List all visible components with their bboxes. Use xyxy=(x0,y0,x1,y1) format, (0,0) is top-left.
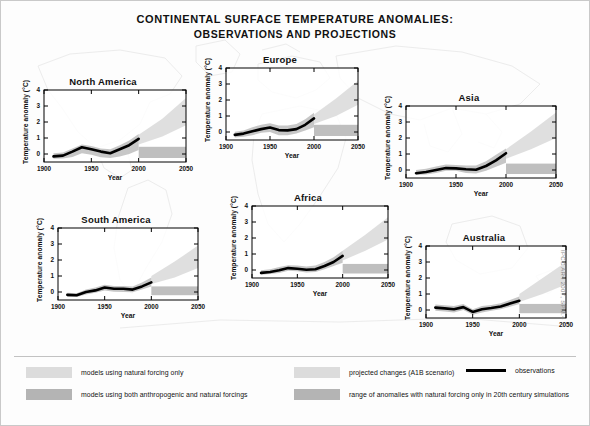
legend-label-anthro-natural: models using both anthropogenic and natu… xyxy=(81,391,248,398)
legend-label-projected: projected changes (A1B scenario) xyxy=(349,369,454,376)
y-tick-label: 4 xyxy=(410,242,422,249)
legend-item-observations: observations xyxy=(466,367,555,374)
x-tick-label: 2050 xyxy=(345,143,371,150)
y-tick-label: 4 xyxy=(390,102,402,109)
legend-swatch-observations xyxy=(466,369,506,372)
x-axis-label: Year xyxy=(406,190,556,197)
title-line-1: Continental Surface Temperature Anomalie… xyxy=(0,12,590,27)
y-tick-label: 1 xyxy=(390,150,402,157)
legend-label-observations: observations xyxy=(515,367,555,374)
x-tick-label: 1950 xyxy=(92,303,118,310)
y-tick-label: 1 xyxy=(410,290,422,297)
x-tick-label: 1950 xyxy=(284,281,310,288)
x-tick-label: 1900 xyxy=(413,321,439,328)
y-tick-label: 2 xyxy=(236,234,248,241)
range-band-20c xyxy=(139,147,186,158)
y-tick-label: 0 xyxy=(28,150,40,157)
y-tick-label: 4 xyxy=(42,224,54,231)
y-tick-label: 4 xyxy=(28,86,40,93)
y-tick-label: 2 xyxy=(410,274,422,281)
y-tick-label: 1 xyxy=(236,250,248,257)
x-tick-label: 2050 xyxy=(173,165,199,172)
range-band-20c xyxy=(343,264,388,274)
x-tick-label: 2000 xyxy=(126,165,152,172)
x-tick-label: 1900 xyxy=(393,181,419,188)
figure-title: Continental Surface Temperature Anomalie… xyxy=(0,12,590,42)
y-tick-label: 0 xyxy=(42,288,54,295)
legend-swatch-range-20c xyxy=(294,389,340,400)
legend-label-natural-only: models using natural forcing only xyxy=(81,369,183,376)
y-axis-label: Temperature anomaly (°C) xyxy=(404,236,411,320)
x-axis-label: Year xyxy=(58,312,198,319)
y-tick-label: 4 xyxy=(210,64,222,71)
legend-divider xyxy=(14,356,576,357)
y-tick-label: 2 xyxy=(42,256,54,263)
legend-item-range-20c: range of anomalies with natural forcing … xyxy=(294,389,569,400)
x-tick-label: 1950 xyxy=(443,181,469,188)
x-tick-label: 1950 xyxy=(257,143,283,150)
legend-swatch-natural-only xyxy=(26,367,72,378)
panel-europe: Europe012341900195020002050Temperature a… xyxy=(196,54,364,162)
x-tick-label: 1950 xyxy=(78,165,104,172)
x-tick-label: 2000 xyxy=(301,143,327,150)
panel-africa: Africa012341900195020002050Temperature a… xyxy=(222,192,394,300)
x-tick-label: 1900 xyxy=(31,165,57,172)
range-band-20c xyxy=(506,164,556,174)
y-tick-label: 3 xyxy=(210,80,222,87)
x-tick-label: 2050 xyxy=(185,303,211,310)
panel-australia: Australia012341900195020002050Temperatur… xyxy=(396,232,572,340)
x-tick-label: 2050 xyxy=(553,321,579,328)
y-tick-label: 0 xyxy=(410,306,422,313)
range-band-20c xyxy=(519,304,566,313)
x-axis-label: Year xyxy=(226,152,358,159)
panel-south-america: South America012341900195020002050Temper… xyxy=(28,214,204,322)
range-band-20c xyxy=(314,125,358,136)
range-band-20c xyxy=(151,286,198,295)
title-line-2: Observations and Projections xyxy=(0,27,590,42)
x-tick-label: 2000 xyxy=(506,321,532,328)
y-tick-label: 3 xyxy=(390,118,402,125)
y-tick-label: 1 xyxy=(210,112,222,119)
y-tick-label: 3 xyxy=(410,258,422,265)
x-tick-label: 2000 xyxy=(138,303,164,310)
x-tick-label: 1900 xyxy=(239,281,265,288)
y-tick-label: 2 xyxy=(210,96,222,103)
y-tick-label: 0 xyxy=(390,166,402,173)
y-tick-label: 3 xyxy=(42,240,54,247)
panel-north-america: North America012341900195020002050Temper… xyxy=(14,76,192,184)
legend: models using natural forcing only models… xyxy=(0,363,590,421)
panel-asia: Asia012341900195020002050Temperature ano… xyxy=(376,92,562,200)
legend-label-range-20c: range of anomalies with natural forcing … xyxy=(349,391,569,398)
x-tick-label: 2000 xyxy=(330,281,356,288)
source-credit: IPCC AR4 2007, SPM.4 xyxy=(560,250,566,320)
y-axis-label: Temperature anomaly (°C) xyxy=(230,196,237,280)
y-tick-label: 3 xyxy=(236,218,248,225)
x-tick-label: 1900 xyxy=(45,303,71,310)
y-tick-label: 0 xyxy=(236,266,248,273)
legend-swatch-projected xyxy=(294,367,340,378)
y-axis-label: Temperature anomaly (°C) xyxy=(36,218,43,302)
legend-item-projected: projected changes (A1B scenario) xyxy=(294,367,454,378)
y-tick-label: 4 xyxy=(236,202,248,209)
legend-item-natural-only: models using natural forcing only xyxy=(26,367,183,378)
y-axis-label: Temperature anomaly (°C) xyxy=(22,80,29,164)
y-tick-label: 3 xyxy=(28,102,40,109)
x-tick-label: 2050 xyxy=(543,181,569,188)
legend-item-anthro-natural: models using both anthropogenic and natu… xyxy=(26,389,248,400)
y-tick-label: 2 xyxy=(390,134,402,141)
y-tick-label: 2 xyxy=(28,118,40,125)
x-axis-label: Year xyxy=(44,174,186,181)
x-tick-label: 2000 xyxy=(493,181,519,188)
y-tick-label: 1 xyxy=(42,272,54,279)
y-axis-label: Temperature anomaly (°C) xyxy=(384,96,391,180)
x-tick-label: 1900 xyxy=(213,143,239,150)
y-axis-label: Temperature anomaly (°C) xyxy=(204,58,211,142)
x-axis-label: Year xyxy=(252,290,388,297)
x-tick-label: 1950 xyxy=(460,321,486,328)
y-tick-label: 1 xyxy=(28,134,40,141)
x-axis-label: Year xyxy=(426,330,566,337)
legend-swatch-anthro-natural xyxy=(26,389,72,400)
y-tick-label: 0 xyxy=(210,128,222,135)
